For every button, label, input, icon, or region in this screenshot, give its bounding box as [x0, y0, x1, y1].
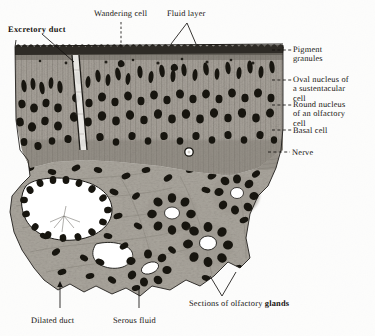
label-fluid-layer: Fluid layer [167, 9, 206, 18]
label-oval-nucleus-line1: Oval nucleus of [293, 75, 349, 84]
label-sections-olfactory-glands: Sections of olfactory glands [189, 299, 289, 308]
label-excretory-duct: Excretory duct [8, 25, 66, 34]
label-dilated-duct: Dilated duct [31, 316, 74, 325]
label-serous-fluid: Serous fluid [113, 316, 156, 325]
label-round-nucleus: Round nucleus of an olfactory cell [293, 100, 345, 128]
label-wandering-cell: Wandering cell [94, 9, 147, 18]
label-round-nucleus-line1: Round nucleus [293, 100, 345, 109]
label-pigment-granules-line1: Pigment [293, 45, 322, 54]
label-sections-glands-bold: glands [265, 299, 289, 308]
label-oval-nucleus-line2: a sustentacular [293, 84, 345, 93]
label-basal-cell: Basal cell [293, 126, 328, 135]
label-sections-prefix: Sections of olfactory [189, 299, 265, 308]
label-oval-nucleus: Oval nucleus of a sustentacular cell [293, 75, 349, 103]
label-nerve: Nerve [292, 148, 313, 157]
label-pigment-granules-line2: granules [293, 54, 323, 63]
label-pigment-granules: Pigment granules [293, 45, 323, 64]
label-round-nucleus-line2: of an olfactory [293, 109, 345, 118]
nerve-fibre-marker [185, 148, 193, 156]
